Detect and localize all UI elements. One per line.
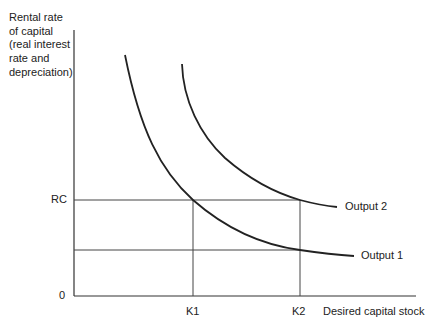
origin-label: 0: [59, 289, 65, 303]
output-1-label: Output 1: [361, 249, 403, 263]
output-2-label: Output 2: [345, 200, 387, 214]
x-axis-title: Desired capital stock: [323, 305, 425, 319]
k2-tick-label: K2: [292, 305, 305, 319]
output-2-curve: [182, 64, 337, 207]
y-axis-title: Rental rate of capital (real interest ra…: [9, 11, 73, 80]
k1-tick-label: K1: [186, 305, 199, 319]
output-1-curve: [125, 55, 354, 256]
rc-tick-label: RC: [51, 193, 67, 207]
